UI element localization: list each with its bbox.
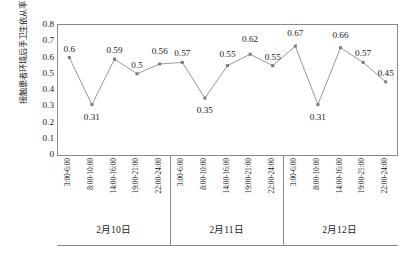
- x-axis-tick-text: 19:00-21:00: [243, 158, 255, 216]
- data-point-marker: [158, 63, 161, 66]
- data-point-marker: [362, 61, 365, 64]
- data-point-value-label: 0.66: [332, 30, 348, 40]
- data-point-value-label: 0.57: [174, 48, 190, 58]
- data-point-value-label: 0.31: [310, 112, 326, 122]
- plot-area: 0.60.310.590.50.560.570.350.550.620.550.…: [57, 24, 398, 156]
- x-axis-tick-text: 14:00-16:00: [108, 158, 120, 216]
- data-point-marker: [316, 103, 319, 106]
- data-point-value-label: 0.59: [106, 45, 122, 55]
- data-point-marker: [271, 64, 274, 67]
- y-axis-tick-label: 0.3: [43, 100, 54, 110]
- data-point-value-label: 0.6: [64, 44, 75, 54]
- data-point-marker: [68, 56, 71, 59]
- x-axis-tick-label: 3:00-6:00: [62, 158, 74, 216]
- x-axis-tick-label: 3:00-6:00: [288, 158, 300, 216]
- x-axis-group-label: 2月11日: [209, 222, 243, 238]
- x-axis-tick-text: 22:00-24:00: [379, 158, 391, 216]
- x-axis-tick-text: 3:00-6:00: [175, 158, 187, 216]
- x-axis-tick-text: 3:00-6:00: [62, 158, 74, 216]
- data-point-marker: [339, 46, 342, 49]
- data-point-value-label: 0.62: [242, 34, 258, 44]
- y-axis-tick-label: 0.5: [43, 68, 54, 78]
- x-axis-tick-label: 22:00-24:00: [379, 158, 391, 216]
- x-axis-group-label: 2月12日: [322, 222, 356, 238]
- data-point-marker: [181, 61, 184, 64]
- data-point-marker: [294, 45, 297, 48]
- data-point-value-label: 0.31: [84, 112, 100, 122]
- x-axis-tick-text: 8:00-10:00: [85, 158, 97, 216]
- x-axis-tick-label: 8:00-10:00: [85, 158, 97, 216]
- x-axis-tick-text: 8:00-10:00: [198, 158, 210, 216]
- x-axis-group-label: 2月10日: [96, 222, 130, 238]
- x-axis-tick-label: 19:00-21:00: [130, 158, 142, 216]
- hand-hygiene-compliance-line-chart: 接触患者环境后手卫生依从率（%） 0.80.70.60.50.40.30.20.…: [0, 0, 417, 256]
- data-point-value-label: 0.45: [378, 68, 394, 78]
- x-axis-tick-label: 19:00-21:00: [243, 158, 255, 216]
- x-axis-tick-label: 14:00-16:00: [221, 158, 233, 216]
- x-axis-tick-text: 19:00-21:00: [130, 158, 142, 216]
- x-axis-tick-text: 19:00-21:00: [356, 158, 368, 216]
- data-point-marker: [90, 103, 93, 106]
- x-axis-tick-label: 8:00-10:00: [311, 158, 323, 216]
- x-axis-group-separator: [170, 156, 171, 246]
- x-axis-tick-text: 22:00-24:00: [266, 158, 278, 216]
- x-axis-tick-text: 14:00-16:00: [334, 158, 346, 216]
- x-axis-group-rule: [57, 245, 398, 246]
- data-point-marker: [384, 80, 387, 83]
- data-point-marker: [249, 53, 252, 56]
- y-axis-tick-label: 0: [49, 149, 54, 159]
- data-point-value-label: 0.5: [131, 60, 142, 70]
- x-axis-tick-text: 8:00-10:00: [311, 158, 323, 216]
- y-axis-tick-label: 0.2: [43, 117, 54, 127]
- x-axis-tick-label: 3:00-6:00: [175, 158, 187, 216]
- x-axis-tick-label: 14:00-16:00: [108, 158, 120, 216]
- x-axis-group-separator: [283, 156, 284, 246]
- x-axis-tick-text: 3:00-6:00: [288, 158, 300, 216]
- data-point-marker: [113, 58, 116, 61]
- y-axis-tick-label: 0.1: [43, 133, 54, 143]
- data-point-value-label: 0.67: [287, 28, 303, 38]
- data-point-value-label: 0.55: [219, 49, 235, 59]
- x-axis-tick-label: 8:00-10:00: [198, 158, 210, 216]
- y-axis-tick-label: 0.7: [43, 35, 54, 45]
- y-axis-tick-labels: 0.80.70.60.50.40.30.20.10: [22, 18, 54, 162]
- data-point-value-label: 0.35: [197, 105, 213, 115]
- data-point-marker: [203, 97, 206, 100]
- data-point-value-label: 0.55: [265, 52, 281, 62]
- data-point-marker: [136, 72, 139, 75]
- y-axis-tick-label: 0.4: [43, 84, 54, 94]
- x-axis-tick-label: 22:00-24:00: [153, 158, 165, 216]
- x-axis-tick-label: 19:00-21:00: [356, 158, 368, 216]
- x-axis-tick-label: 22:00-24:00: [266, 158, 278, 216]
- x-axis-category-band: 3:00-6:008:00-10:0014:00-16:0019:00-21:0…: [57, 156, 398, 246]
- data-point-value-label: 0.56: [152, 46, 168, 56]
- data-point-marker: [226, 64, 229, 67]
- y-axis-tick-label: 0.6: [43, 52, 54, 62]
- y-axis-tick-label: 0.8: [43, 19, 54, 29]
- x-axis-tick-text: 14:00-16:00: [221, 158, 233, 216]
- data-point-value-label: 0.57: [355, 48, 371, 58]
- x-axis-tick-label: 14:00-16:00: [334, 158, 346, 216]
- x-axis-tick-text: 22:00-24:00: [153, 158, 165, 216]
